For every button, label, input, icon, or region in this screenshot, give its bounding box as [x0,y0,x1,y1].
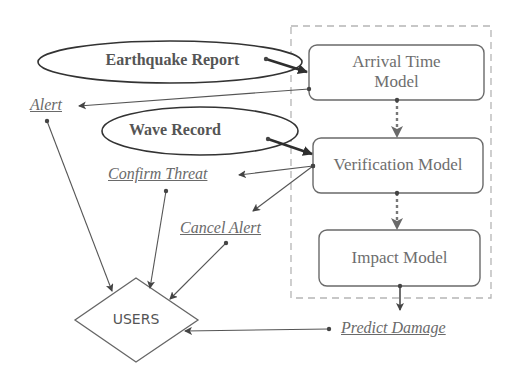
edge-cancel-to-users [170,243,226,299]
users-label: USERS [100,311,172,327]
edge-arrival-to-alert [79,89,309,106]
wave-record-label: Wave Record [110,121,240,139]
alert-output-label: Alert [30,96,62,114]
verification-model-label: Verification Model [313,155,483,175]
edge-confirm-to-users [150,191,166,288]
predict-damage-output-label: Predict Damage [341,319,446,337]
arrival-time-model-label-line1: Arrival Time [309,52,484,72]
edge-alert-to-users [47,121,112,291]
confirm-threat-output-label: Confirm Threat [108,165,207,183]
edge-predict-to-users [185,329,329,331]
cancel-alert-output-label: Cancel Alert [180,219,261,237]
impact-model-label: Impact Model [319,248,480,268]
arrival-time-model-label-line2: Model [309,72,484,92]
arrival-time-model-label: Arrival Time Model [309,52,484,92]
earthquake-report-label: Earthquake Report [80,51,265,69]
